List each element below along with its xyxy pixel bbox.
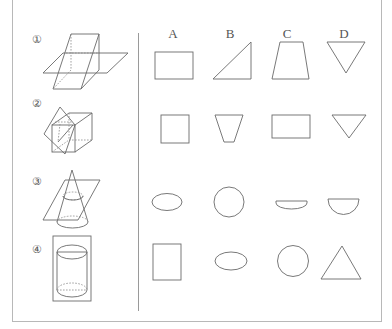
solid-2-cube-figure: [44, 107, 92, 154]
option-4b-ellipse[interactable]: [215, 252, 247, 270]
option-1d-inverted-triangle[interactable]: [327, 42, 365, 73]
solid-4-cylinder-figure: [53, 236, 91, 301]
option-row-1: [155, 42, 365, 79]
option-4d-triangle[interactable]: [321, 246, 361, 279]
option-3d-semicircle[interactable]: [328, 199, 359, 214]
option-1a-rectangle[interactable]: [155, 52, 193, 79]
solid-1-prism-figure: [43, 34, 128, 89]
option-2b-inverted-trapezoid[interactable]: [215, 115, 243, 142]
solid-3-cone-figure: [43, 170, 100, 228]
option-row-3: [152, 187, 359, 217]
option-4c-circle[interactable]: [278, 246, 309, 277]
option-row-2: [161, 115, 366, 143]
option-3a-ellipse[interactable]: [152, 194, 182, 211]
option-1c-trapezoid[interactable]: [272, 42, 309, 79]
option-3c-shallow-semicircle[interactable]: [276, 201, 307, 209]
option-row-4: [153, 244, 361, 280]
option-3b-circle[interactable]: [214, 187, 244, 217]
option-2c-rectangle[interactable]: [272, 115, 310, 138]
diagram-canvas: [0, 0, 392, 329]
option-4a-rectangle[interactable]: [153, 244, 181, 280]
option-1b-right-triangle[interactable]: [213, 42, 251, 79]
option-2d-inverted-triangle[interactable]: [332, 115, 366, 138]
option-2a-square[interactable]: [161, 115, 189, 143]
